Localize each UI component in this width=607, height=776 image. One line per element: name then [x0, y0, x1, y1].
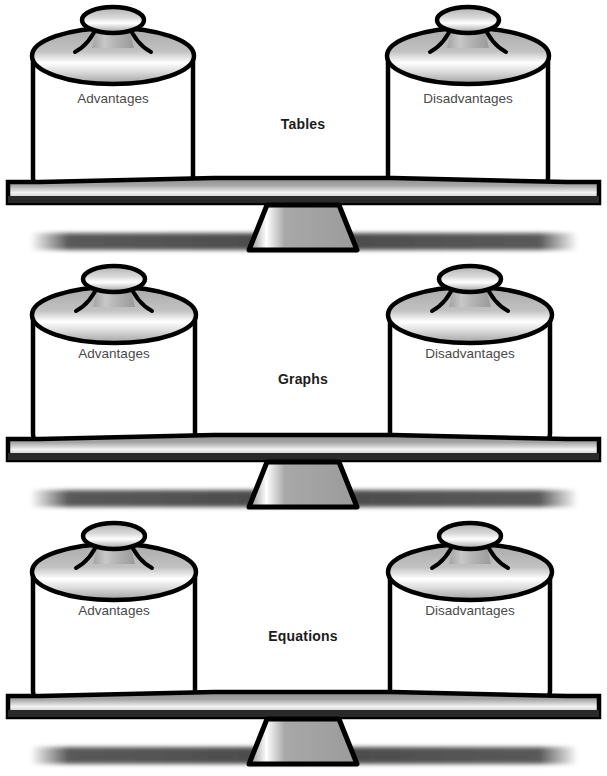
- jar-label-right: Disadvantages: [425, 346, 515, 361]
- scale-center-label: Tables: [281, 116, 326, 132]
- fulcrum: [249, 205, 357, 250]
- scale-unit-3: Advantages Disadvantages Equations: [0, 519, 607, 776]
- jar-knob-right: [437, 7, 499, 33]
- beam-underside: [8, 453, 599, 460]
- scale-center-label: Equations: [268, 628, 337, 644]
- scale-unit-1: Advantages Disadvantages Tables: [0, 0, 607, 262]
- beam-underside: [8, 710, 599, 717]
- fulcrum: [249, 462, 357, 507]
- jar-knob-left: [82, 7, 144, 33]
- jar-label-right: Disadvantages: [423, 91, 513, 106]
- jar-knob-left: [83, 523, 145, 549]
- jar-label-right: Disadvantages: [425, 603, 515, 618]
- jar-knob-right: [439, 523, 501, 549]
- balance-scales-figure: Advantages Disadvantages Tables: [0, 0, 607, 776]
- jar-knob-right: [439, 266, 501, 292]
- scale-diagram-3: Advantages Disadvantages Equations: [0, 519, 607, 776]
- jar-knob-left: [83, 266, 145, 292]
- scale-diagram-2: Advantages Disadvantages Graphs: [0, 262, 607, 519]
- scale-center-label: Graphs: [278, 371, 328, 387]
- scale-diagram-1: Advantages Disadvantages Tables: [0, 0, 607, 262]
- fulcrum: [249, 719, 357, 764]
- beam-underside: [8, 196, 599, 203]
- scale-unit-2: Advantages Disadvantages Graphs: [0, 262, 607, 519]
- jar-label-left: Advantages: [78, 603, 150, 618]
- jar-label-left: Advantages: [78, 346, 150, 361]
- jar-label-left: Advantages: [77, 91, 149, 106]
